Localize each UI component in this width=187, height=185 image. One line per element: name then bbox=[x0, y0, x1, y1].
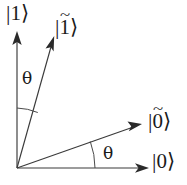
axis-ket-zero-tilde-arrowhead bbox=[128, 122, 143, 132]
axis-ket-one-tilde bbox=[17, 36, 54, 168]
angle-arc-top bbox=[17, 108, 38, 113]
label-ket-zero-tilde-angle: ⟩ bbox=[163, 109, 171, 133]
axis-ket-zero-tilde-line bbox=[17, 128, 132, 169]
axis-ket-zero-tilde bbox=[17, 122, 142, 169]
label-ket-zero-tilde: |~0⟩ bbox=[148, 110, 171, 132]
axis-ket-zero bbox=[17, 163, 149, 172]
label-ket-zero-symbol: 0 bbox=[156, 149, 167, 173]
label-ket-one-tilde-angle: ⟩ bbox=[70, 15, 78, 39]
label-ket-zero-tilde-symbol-wrap: ~0 bbox=[152, 111, 163, 132]
tilde-accent-icon: ~ bbox=[60, 8, 70, 23]
angle-arc-bottom bbox=[90, 142, 95, 169]
label-ket-one-symbol: 1 bbox=[10, 1, 21, 25]
qubit-basis-diagram: |1⟩ |~1⟩ |~0⟩ |0⟩ θ θ bbox=[0, 0, 187, 185]
label-theta-top: θ bbox=[22, 70, 32, 87]
label-ket-one-angle: ⟩ bbox=[21, 1, 29, 25]
label-ket-zero: |0⟩ bbox=[152, 150, 175, 172]
axis-ket-one bbox=[12, 31, 21, 168]
tilde-accent-icon: ~ bbox=[153, 102, 163, 117]
label-ket-zero-angle: ⟩ bbox=[167, 149, 175, 173]
label-ket-one: |1⟩ bbox=[6, 2, 29, 24]
label-ket-one-tilde-symbol-wrap: ~1 bbox=[59, 17, 70, 38]
label-ket-one-tilde: |~1⟩ bbox=[55, 16, 78, 38]
axis-ket-one-tilde-line bbox=[17, 45, 52, 168]
label-theta-bottom: θ bbox=[103, 145, 113, 162]
